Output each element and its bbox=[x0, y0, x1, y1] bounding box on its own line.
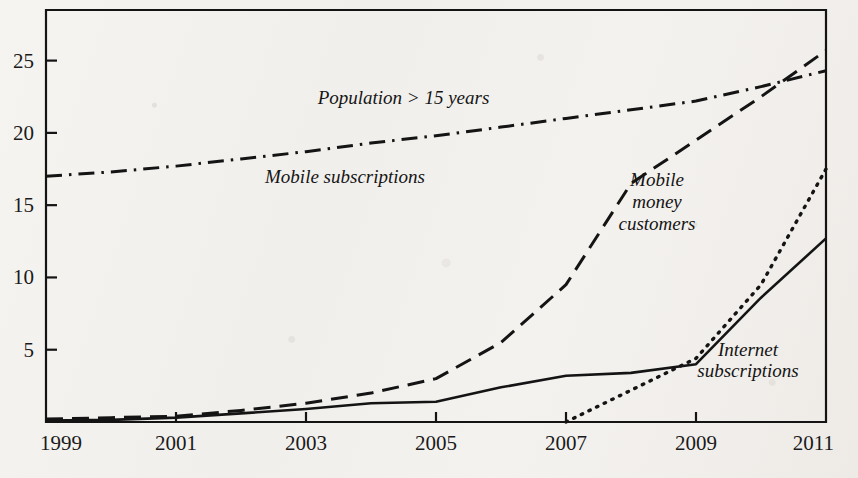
y-tick-label-15: 15 bbox=[13, 193, 34, 217]
annotation-internet: Internet bbox=[717, 339, 779, 360]
y-tick-label-5: 5 bbox=[24, 338, 35, 362]
x-tick-label-2005: 2005 bbox=[415, 431, 457, 455]
annotation-population-15-years: Population > 15 years bbox=[317, 87, 490, 108]
x-axis-label-group: 1999200120032005200720092011 bbox=[40, 431, 834, 455]
y-tick-label-10: 10 bbox=[13, 265, 34, 289]
y-tick-label-25: 25 bbox=[13, 49, 34, 73]
annotation-customers: customers bbox=[618, 213, 695, 234]
chart-canvas: 510152025 1999200120032005200720092011 P… bbox=[0, 0, 858, 478]
x-tick-label-2003: 2003 bbox=[285, 431, 327, 455]
series-annotation-group: Population > 15 yearsMobile subscription… bbox=[264, 87, 799, 381]
x-tick-label-2007: 2007 bbox=[545, 431, 587, 455]
y-axis-label-group: 510152025 bbox=[13, 49, 34, 362]
y-axis-tick-group bbox=[46, 61, 57, 350]
annotation-mobile-subscriptions: Mobile subscriptions bbox=[264, 166, 425, 187]
annotation-money: money bbox=[632, 191, 682, 212]
x-tick-label-2001: 2001 bbox=[155, 431, 197, 455]
x-tick-label-1999: 1999 bbox=[40, 431, 82, 455]
series-line-mobile-money-customers bbox=[566, 169, 826, 422]
annotation-subscriptions: subscriptions bbox=[697, 360, 798, 381]
x-tick-label-2011: 2011 bbox=[793, 431, 834, 455]
line-chart-figure: 510152025 1999200120032005200720092011 P… bbox=[0, 0, 858, 478]
y-tick-label-20: 20 bbox=[13, 121, 34, 145]
annotation-mobile: Mobile bbox=[629, 169, 684, 190]
x-tick-label-2009: 2009 bbox=[675, 431, 717, 455]
series-line-internet-subscriptions bbox=[46, 238, 826, 420]
